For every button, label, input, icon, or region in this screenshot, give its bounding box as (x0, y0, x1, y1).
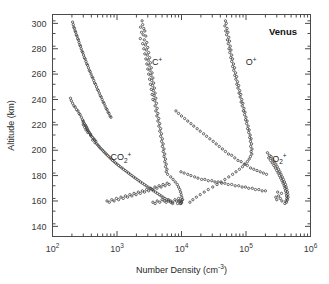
data-point (135, 193, 137, 195)
data-point (159, 122, 161, 124)
data-point (152, 77, 154, 79)
data-point (234, 185, 236, 187)
data-point (250, 150, 252, 152)
x-tick-exponent: 3 (120, 242, 124, 249)
series-label-superscript: + (128, 151, 132, 158)
data-point (148, 51, 150, 53)
data-point (72, 24, 74, 26)
data-point (145, 49, 147, 51)
data-point (278, 174, 280, 176)
data-point (141, 20, 143, 22)
data-point (224, 178, 226, 180)
data-point (77, 110, 79, 112)
data-point (242, 102, 244, 104)
data-point (241, 105, 243, 107)
x-axis-title-tail: ) (224, 265, 227, 275)
data-point (164, 161, 166, 163)
data-point (151, 79, 153, 81)
data-point (142, 43, 144, 45)
data-point (234, 72, 236, 74)
data-point (160, 140, 162, 142)
data-point (146, 54, 148, 56)
data-point (209, 138, 211, 140)
data-point (194, 176, 196, 178)
x-tick-exponent: 2 (56, 242, 60, 249)
data-point (245, 122, 247, 124)
data-point (203, 191, 205, 193)
data-point (181, 196, 183, 198)
data-point (227, 183, 229, 185)
data-point (217, 181, 219, 183)
data-point (231, 173, 233, 175)
data-point (120, 196, 122, 198)
data-point (69, 97, 71, 99)
data-point (90, 73, 92, 75)
data-point (238, 84, 240, 86)
data-point (187, 120, 189, 122)
data-point (251, 148, 253, 150)
x-axis-title: Number Density (cm-3) (136, 263, 227, 275)
x-tick-label: 103 (110, 242, 124, 254)
data-point (101, 98, 103, 100)
y-tick-label: 180 (31, 171, 46, 181)
data-point (166, 168, 168, 170)
series-label-Oplus: O+ (246, 56, 257, 68)
series-label-subscript: 2 (279, 158, 283, 165)
data-point (227, 31, 229, 33)
data-points-group (69, 20, 289, 205)
data-point (245, 116, 247, 118)
data-point (276, 169, 278, 171)
data-point (181, 199, 183, 201)
data-point (85, 129, 87, 131)
data-point (71, 102, 73, 104)
data-point (282, 182, 284, 184)
data-point (144, 53, 146, 55)
data-point (74, 106, 76, 108)
data-point (239, 89, 241, 91)
planet-annotation: Venus (269, 26, 297, 37)
data-point (160, 135, 162, 137)
data-point (231, 58, 233, 60)
data-point (192, 199, 194, 201)
data-point (250, 143, 252, 145)
data-point (274, 167, 276, 169)
data-point (165, 201, 167, 203)
data-point (147, 46, 149, 48)
series-Oplus (189, 20, 253, 204)
data-point (156, 200, 158, 202)
data-point (248, 129, 250, 131)
data-point (158, 117, 160, 119)
data-point (240, 161, 242, 163)
data-point (248, 131, 250, 133)
data-point (205, 135, 207, 137)
data-point (87, 67, 89, 69)
data-point (258, 188, 260, 190)
data-point (148, 190, 150, 192)
data-point (280, 177, 282, 179)
data-point (78, 41, 80, 43)
data-point (190, 122, 192, 124)
data-point (162, 143, 164, 145)
data-point (183, 172, 185, 174)
data-point (167, 173, 169, 175)
series-label-superscript: + (253, 56, 257, 63)
data-point (281, 180, 283, 182)
data-point (126, 196, 128, 198)
data-point (154, 202, 156, 204)
data-point (246, 164, 248, 166)
data-point (265, 173, 267, 175)
series-label-Cplus: C+ (152, 56, 163, 68)
data-point (106, 108, 108, 110)
data-point (224, 150, 226, 152)
data-point (92, 139, 94, 141)
data-point (155, 110, 157, 112)
data-point (214, 181, 216, 183)
data-point (227, 153, 229, 155)
data-point (139, 37, 141, 39)
data-point (224, 20, 226, 22)
data-point (122, 197, 124, 199)
data-point (176, 202, 178, 204)
data-point (139, 26, 141, 28)
data-point (239, 96, 241, 98)
data-point (177, 197, 179, 199)
